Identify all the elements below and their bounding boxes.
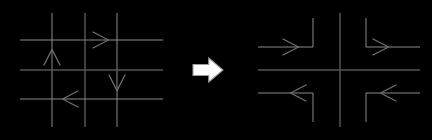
diagram-canvas [0,0,432,140]
figure-root [0,0,432,140]
